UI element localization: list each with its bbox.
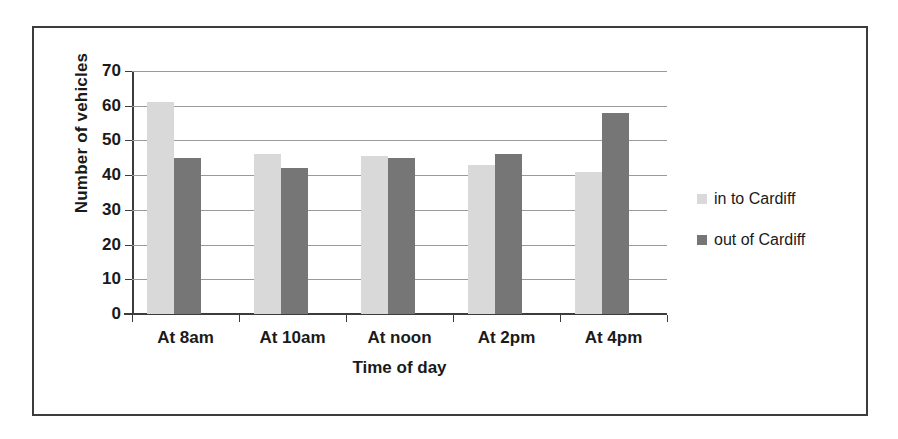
legend-swatch-icon xyxy=(697,194,707,204)
y-axis-tick xyxy=(125,71,132,72)
x-axis-tick-label: At 4pm xyxy=(560,328,667,348)
y-axis-title: Number of vehicles xyxy=(72,33,92,233)
legend-label: in to Cardiff xyxy=(714,190,796,208)
y-axis-tick xyxy=(125,245,132,246)
y-axis-tick-label: 70 xyxy=(102,61,121,81)
y-axis-tick-label: 40 xyxy=(102,165,121,185)
bar[interactable] xyxy=(147,102,174,314)
y-axis-tick-label: 10 xyxy=(102,269,121,289)
x-axis-tick xyxy=(667,315,668,322)
bar-group xyxy=(239,71,346,314)
bar[interactable] xyxy=(174,158,201,314)
plot-area: 706050403020100 At 8amAt 10amAt noonAt 2… xyxy=(132,71,667,314)
x-axis-title: Time of day xyxy=(132,358,667,378)
bar[interactable] xyxy=(602,113,629,314)
x-axis-tick-label: At 10am xyxy=(239,328,346,348)
bar[interactable] xyxy=(254,154,281,314)
bar-group xyxy=(453,71,560,314)
bar-group xyxy=(346,71,453,314)
y-axis-tick xyxy=(125,106,132,107)
x-axis-tick-label: At 8am xyxy=(132,328,239,348)
y-axis-tick-label: 30 xyxy=(102,200,121,220)
x-axis-tick-label: At 2pm xyxy=(453,328,560,348)
chart-legend: in to Cardiffout of Cardiff xyxy=(697,190,805,272)
y-axis-tick-label: 0 xyxy=(112,304,121,324)
bar[interactable] xyxy=(468,165,495,314)
x-axis-tick xyxy=(560,315,561,322)
chart-frame: Number of vehicles 706050403020100 At 8a… xyxy=(32,26,868,416)
y-axis-tick xyxy=(125,210,132,211)
x-axis-tick-label: At noon xyxy=(346,328,453,348)
y-axis-tick xyxy=(125,279,132,280)
bar-group xyxy=(560,71,667,314)
x-axis-tick xyxy=(239,315,240,322)
legend-item[interactable]: out of Cardiff xyxy=(697,231,805,249)
bar-group xyxy=(132,71,239,314)
x-axis-tick xyxy=(453,315,454,322)
y-axis-tick xyxy=(125,140,132,141)
bar[interactable] xyxy=(495,154,522,314)
x-axis-tick xyxy=(132,315,133,322)
y-axis-tick-label: 60 xyxy=(102,96,121,116)
bar[interactable] xyxy=(575,172,602,314)
legend-label: out of Cardiff xyxy=(714,231,805,249)
bar[interactable] xyxy=(388,158,415,314)
bar[interactable] xyxy=(361,156,388,314)
y-axis-tick-label: 50 xyxy=(102,130,121,150)
y-axis-tick xyxy=(125,314,132,315)
y-axis-tick xyxy=(125,175,132,176)
legend-item[interactable]: in to Cardiff xyxy=(697,190,805,208)
y-axis-tick-label: 20 xyxy=(102,235,121,255)
bar[interactable] xyxy=(281,168,308,314)
x-axis-tick xyxy=(346,315,347,322)
legend-swatch-icon xyxy=(697,235,707,245)
